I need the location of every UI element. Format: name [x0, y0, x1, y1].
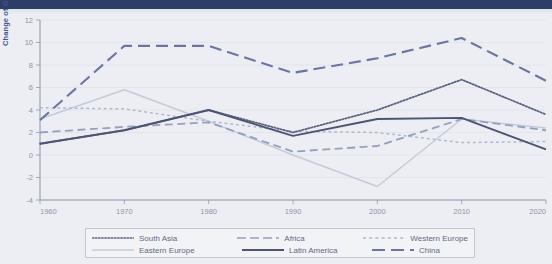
legend-swatch-western-europe: [363, 233, 405, 243]
line-chart-svg: -4-2024681012196019701980199020002010202…: [0, 14, 552, 219]
legend-item-eastern-europe[interactable]: Eastern Europe: [92, 245, 242, 255]
legend-swatch-latin-america: [242, 245, 284, 255]
legend-item-latin-america[interactable]: Latin America: [242, 245, 372, 255]
legend-swatch-eastern-europe: [92, 245, 134, 255]
legend-item-china[interactable]: China: [372, 245, 440, 255]
legend-label-latin-america: Latin America: [289, 246, 337, 255]
series-line-latin-america: [40, 110, 546, 149]
chart-legend: South Asia Africa Western Europe Eastern…: [85, 228, 475, 258]
y-axis-tick-label: -4: [26, 196, 33, 205]
legend-row-1: South Asia Africa Western Europe: [92, 232, 468, 244]
legend-item-western-europe[interactable]: Western Europe: [363, 233, 468, 243]
y-axis-tick-label: -2: [26, 173, 33, 182]
plot-area: Change of GDP in capita in percent -4-20…: [0, 14, 552, 219]
legend-label-western-europe: Western Europe: [410, 234, 468, 243]
x-axis-tick-label: 2010: [453, 207, 470, 216]
y-axis-tick-label: 12: [25, 16, 33, 25]
chart-page: Change of GDP in capita in percent -4-20…: [0, 0, 552, 264]
legend-label-africa: Africa: [284, 234, 304, 243]
legend-swatch-china: [372, 245, 414, 255]
y-axis-tick-label: 2: [29, 128, 33, 137]
legend-swatch-south-asia: [92, 233, 134, 243]
x-axis-tick-label: 1990: [285, 207, 302, 216]
x-axis-tick-label: 1960: [40, 207, 57, 216]
y-axis-tick-label: 0: [29, 151, 33, 160]
legend-label-south-asia: South Asia: [139, 234, 177, 243]
series-line-south-asia: [40, 80, 546, 144]
x-axis-tick-label: 1970: [116, 207, 133, 216]
legend-item-south-asia[interactable]: South Asia: [92, 233, 237, 243]
y-axis-tick-label: 6: [29, 83, 33, 92]
y-axis-tick-label: 8: [29, 61, 33, 70]
top-banner-bar: [0, 0, 552, 9]
series-line-eastern-europe: [40, 90, 546, 187]
y-axis-tick-label: 4: [29, 106, 33, 115]
series-line-china: [40, 38, 546, 120]
x-axis-tick-label: 2000: [369, 207, 386, 216]
x-axis-tick-label: 1980: [200, 207, 217, 216]
legend-label-china: China: [419, 246, 440, 255]
legend-item-africa[interactable]: Africa: [237, 233, 363, 243]
legend-row-2: Eastern Europe Latin America China: [92, 244, 468, 256]
x-axis-tick-label: 2020: [529, 207, 546, 216]
legend-label-eastern-europe: Eastern Europe: [139, 246, 195, 255]
y-axis-tick-label: 10: [25, 38, 33, 47]
legend-swatch-africa: [237, 233, 279, 243]
series-line-western-europe: [40, 108, 546, 143]
